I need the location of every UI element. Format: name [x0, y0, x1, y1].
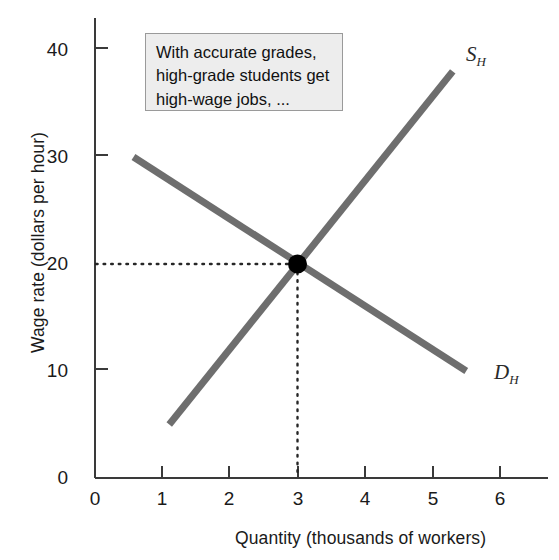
supply-demand-chart: Wage rate (dollars per hour) Quantity (t…	[0, 0, 559, 560]
annotation-note-line-2: high-grade students get	[156, 64, 342, 87]
demand-curve-label-text: D	[494, 360, 509, 384]
equilibrium-point-marker	[288, 255, 307, 274]
supply-curve-label: SH	[466, 42, 486, 70]
annotation-note-line-1: With accurate grades,	[156, 41, 342, 64]
supply-curve-label-text: S	[466, 42, 477, 66]
annotation-note-line-3: high-wage jobs, ...	[156, 88, 342, 111]
supply-curve	[169, 71, 453, 424]
demand-curve-label: DH	[494, 360, 519, 388]
demand-curve-label-subscript: H	[509, 372, 518, 387]
annotation-note: With accurate grades, high-grade student…	[145, 33, 343, 111]
supply-curve-label-subscript: H	[477, 54, 486, 69]
